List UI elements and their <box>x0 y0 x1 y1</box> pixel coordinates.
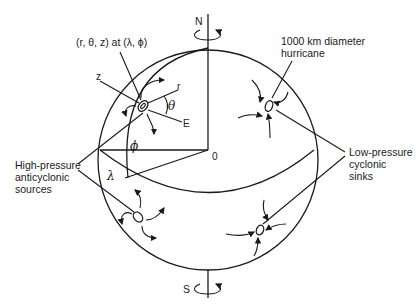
r-label: r <box>177 81 181 92</box>
z-axis <box>100 81 139 103</box>
low-pressure-label-line3: sinks <box>349 170 373 182</box>
hurricane-label-line1: 1000 km diameter <box>281 35 366 47</box>
south-label: S <box>183 283 190 295</box>
low-pressure-label-line1: Low-pressure <box>349 146 413 158</box>
hurricane-leader <box>272 61 292 98</box>
north-label: N <box>195 15 203 27</box>
longitude-radius <box>125 150 208 178</box>
phi-label: ϕ <box>130 139 138 153</box>
north-cyclonic-sink <box>238 80 288 138</box>
low-pressure-leader-north <box>276 110 345 152</box>
lambda-label: λ <box>106 169 115 183</box>
origin-label: 0 <box>212 151 218 162</box>
south-anticyclonic-source <box>121 190 164 238</box>
theta-label: θ <box>168 99 176 113</box>
east-label: E <box>183 118 190 129</box>
equator-line <box>100 150 314 193</box>
east-axis <box>148 110 182 122</box>
south-cyclonic-sink <box>226 200 286 256</box>
high-pressure-label-line3: sources <box>15 183 52 195</box>
z-label: z <box>96 71 101 82</box>
high-pressure-label-line2: anticyclonic <box>15 171 69 183</box>
earth-diagram: N S 0 ϕ λ z r E θ (r, θ, z) at (λ, ϕ) 10… <box>0 0 420 308</box>
meridian-arc <box>127 48 208 178</box>
high-pressure-label-line1: High-pressure <box>15 159 81 171</box>
high-pressure-leader-south <box>78 170 134 212</box>
low-pressure-label-line2: cyclonic <box>349 158 386 170</box>
hurricane-label-line2: hurricane <box>281 47 325 59</box>
coordinate-label: (r, θ, z) at (λ, ϕ) <box>76 36 147 48</box>
